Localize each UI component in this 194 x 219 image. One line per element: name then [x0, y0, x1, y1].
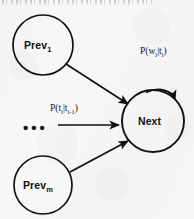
label-transition-probability: P(ti|ti-1)	[50, 103, 78, 115]
edge-prev-first-to-next	[66, 64, 128, 104]
figure-canvas: Prev1 Prevm Next ••• P(ti|ti-1) P(wi|ti)	[0, 0, 194, 219]
transition-prob-sub2: i-1	[67, 108, 74, 115]
node-label-prev-last-text: Prev	[23, 179, 46, 191]
node-label-prev-last: Prevm	[23, 179, 53, 194]
node-label-next-text: Next	[138, 115, 161, 127]
node-label-prev-first: Prev1	[24, 39, 51, 54]
ellipsis-indicator: •••	[23, 120, 48, 135]
node-label-prev-last-subscript: m	[46, 185, 53, 194]
edge-prev-last-to-next	[70, 141, 128, 172]
node-label-prev-first-text: Prev	[24, 39, 47, 51]
emission-prob-prefix: P(w	[140, 46, 155, 56]
label-emission-probability: P(wi|ti)	[140, 46, 167, 58]
transition-prob-prefix: P(t	[50, 103, 61, 113]
node-label-next: Next	[138, 115, 161, 127]
node-label-prev-first-subscript: 1	[47, 45, 51, 54]
transition-prob-suffix: )	[75, 103, 78, 113]
emission-prob-suffix: )	[163, 46, 166, 56]
